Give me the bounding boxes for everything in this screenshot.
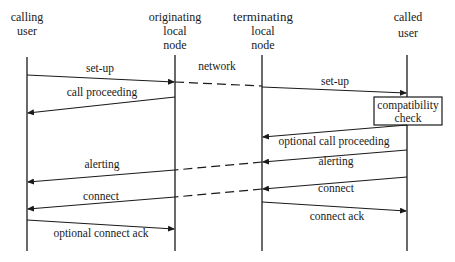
message-call-proceeding: call proceeding	[28, 86, 175, 113]
message-label: connect	[83, 190, 120, 202]
message-label: call proceeding	[67, 86, 138, 99]
message-optional-call-proceeding: optional call proceeding	[263, 125, 407, 148]
message-label: alerting	[318, 155, 353, 168]
message-alerting-2: alerting	[28, 158, 175, 182]
message-network-alerting	[175, 162, 262, 170]
participant-label-line: originating	[149, 10, 202, 24]
process-label-line: compatibility	[377, 99, 439, 112]
message-connect-2: connect	[28, 190, 175, 209]
participant-label-line: terminating	[233, 9, 293, 24]
message-label: optional call proceeding	[278, 135, 389, 148]
participant-calling-user: calling user	[11, 10, 44, 38]
message-label: set-up	[86, 62, 114, 75]
message-optional-connect-ack: optional connect ack	[27, 220, 174, 240]
participant-terminating-node: terminating local node	[233, 9, 293, 52]
message-label: set-up	[321, 75, 349, 88]
participant-label-line: user	[398, 26, 418, 40]
participant-called-user: called user	[394, 10, 423, 40]
message-alerting-1: alerting	[263, 150, 407, 168]
sequence-diagram: calling user originating local node term…	[0, 0, 455, 262]
participant-label-line: called	[394, 10, 423, 24]
participant-label-line: user	[17, 24, 37, 38]
message-network-connect	[175, 189, 262, 197]
process-label-line: check	[395, 112, 422, 124]
participant-originating-node: originating local node	[149, 10, 202, 52]
message-connect-1: connect	[263, 177, 407, 194]
message-setup-2: set-up	[262, 75, 406, 93]
message-network-setup	[175, 82, 262, 86]
participant-label-line: calling	[11, 10, 44, 24]
participant-label-line: node	[251, 38, 274, 52]
message-setup-1: set-up	[27, 62, 174, 82]
message-label: alerting	[84, 158, 119, 171]
message-label: connect	[318, 182, 355, 194]
participant-label-line: local	[163, 24, 187, 38]
participant-label-line: node	[163, 38, 186, 52]
participant-label-line: local	[251, 24, 275, 38]
message-label: connect ack	[310, 210, 365, 222]
network-label: network	[198, 60, 236, 72]
message-connect-ack: connect ack	[262, 202, 406, 222]
message-label: optional connect ack	[53, 227, 148, 240]
compatibility-check-box: compatibility check	[374, 97, 442, 125]
